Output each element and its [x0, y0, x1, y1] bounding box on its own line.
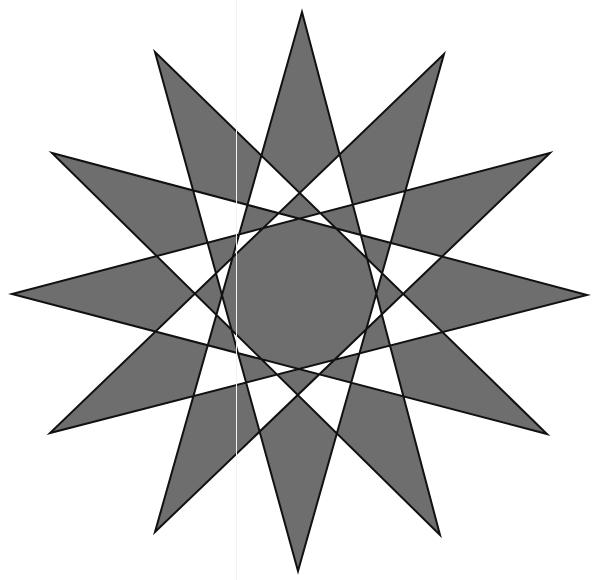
page-crease [236, 0, 237, 580]
twelve-point-star-diagram [0, 0, 593, 580]
star-polygon-path [12, 12, 587, 571]
star-figure [0, 0, 593, 580]
